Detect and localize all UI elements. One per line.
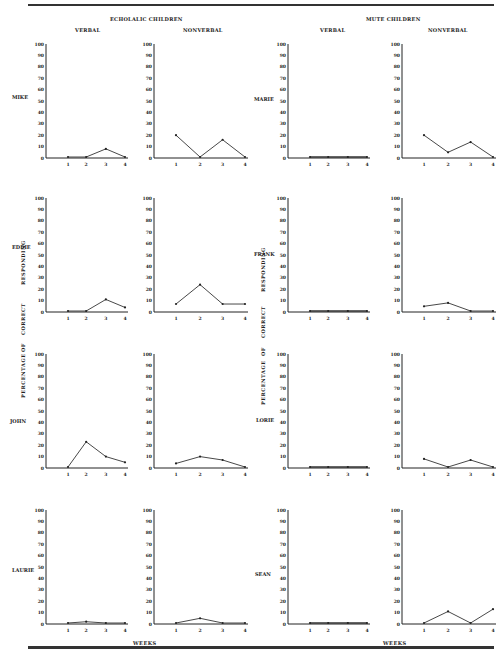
- svg-text:4: 4: [491, 472, 494, 477]
- svg-text:20: 20: [280, 443, 286, 448]
- svg-text:30: 30: [394, 121, 400, 126]
- svg-text:10: 10: [394, 298, 400, 303]
- svg-text:60: 60: [38, 241, 44, 246]
- svg-text:90: 90: [280, 519, 286, 524]
- svg-text:40: 40: [280, 264, 286, 269]
- svg-text:0: 0: [149, 466, 152, 471]
- svg-text:90: 90: [38, 363, 44, 368]
- svg-text:70: 70: [280, 542, 286, 547]
- svg-text:2: 2: [198, 162, 201, 167]
- svg-text:4: 4: [365, 162, 368, 167]
- svg-text:70: 70: [38, 386, 44, 391]
- y-axis-label-of-right: OF: [260, 347, 266, 356]
- svg-text:2: 2: [198, 628, 201, 633]
- header-echolalic-nonverbal: NONVERBAL: [183, 27, 223, 33]
- header-echolalic-children: ECHOLALIC CHILDREN: [110, 16, 183, 22]
- svg-text:80: 80: [280, 218, 286, 223]
- svg-text:70: 70: [280, 386, 286, 391]
- svg-text:70: 70: [146, 542, 152, 547]
- svg-text:0: 0: [283, 622, 286, 627]
- svg-text:40: 40: [146, 110, 152, 115]
- svg-text:50: 50: [280, 99, 286, 104]
- svg-text:20: 20: [394, 133, 400, 138]
- svg-text:60: 60: [146, 241, 152, 246]
- svg-text:2: 2: [446, 628, 449, 633]
- header-mute-verbal: VERBAL: [320, 27, 345, 33]
- svg-text:40: 40: [146, 264, 152, 269]
- svg-text:100: 100: [35, 196, 44, 201]
- svg-text:3: 3: [469, 628, 472, 633]
- svg-text:10: 10: [146, 610, 152, 615]
- svg-text:2: 2: [327, 316, 330, 321]
- svg-text:4: 4: [243, 472, 246, 477]
- svg-text:20: 20: [38, 133, 44, 138]
- svg-text:90: 90: [38, 53, 44, 58]
- svg-text:80: 80: [38, 218, 44, 223]
- svg-text:3: 3: [346, 628, 349, 633]
- svg-text:80: 80: [394, 64, 400, 69]
- svg-text:80: 80: [394, 530, 400, 535]
- svg-text:50: 50: [146, 99, 152, 104]
- svg-text:40: 40: [394, 576, 400, 581]
- chart-mike-nonverbal: 01020304050607080901001234: [140, 40, 252, 170]
- svg-text:4: 4: [365, 316, 368, 321]
- svg-text:1: 1: [174, 162, 177, 167]
- svg-text:2: 2: [446, 162, 449, 167]
- svg-text:50: 50: [394, 99, 400, 104]
- header-echolalic-verbal: VERBAL: [75, 27, 100, 33]
- svg-text:90: 90: [394, 363, 400, 368]
- svg-text:60: 60: [280, 553, 286, 558]
- svg-text:0: 0: [41, 156, 44, 161]
- svg-text:20: 20: [38, 287, 44, 292]
- svg-text:40: 40: [146, 576, 152, 581]
- svg-text:100: 100: [277, 42, 286, 47]
- svg-text:0: 0: [149, 622, 152, 627]
- chart-marie-nonverbal: 01020304050607080901001234: [388, 40, 500, 170]
- svg-text:20: 20: [38, 599, 44, 604]
- svg-text:4: 4: [123, 316, 126, 321]
- svg-text:30: 30: [146, 121, 152, 126]
- svg-text:60: 60: [280, 241, 286, 246]
- svg-text:60: 60: [146, 87, 152, 92]
- svg-text:100: 100: [391, 196, 400, 201]
- svg-text:100: 100: [143, 508, 152, 513]
- svg-text:100: 100: [277, 196, 286, 201]
- svg-text:60: 60: [280, 397, 286, 402]
- svg-text:3: 3: [221, 628, 224, 633]
- svg-text:4: 4: [123, 628, 126, 633]
- svg-text:40: 40: [394, 420, 400, 425]
- svg-text:80: 80: [38, 374, 44, 379]
- chart-lorie-nonverbal: 01020304050607080901001234: [388, 350, 500, 480]
- svg-text:50: 50: [394, 565, 400, 570]
- svg-text:100: 100: [35, 508, 44, 513]
- svg-text:3: 3: [221, 162, 224, 167]
- svg-text:4: 4: [491, 162, 494, 167]
- svg-text:0: 0: [397, 310, 400, 315]
- svg-text:0: 0: [397, 156, 400, 161]
- svg-text:90: 90: [146, 363, 152, 368]
- svg-text:70: 70: [146, 230, 152, 235]
- svg-text:80: 80: [280, 64, 286, 69]
- svg-text:10: 10: [280, 144, 286, 149]
- svg-text:3: 3: [346, 472, 349, 477]
- svg-text:1: 1: [422, 162, 425, 167]
- svg-text:1: 1: [308, 162, 311, 167]
- svg-text:30: 30: [394, 587, 400, 592]
- child-name-john: JOHN: [10, 418, 26, 424]
- svg-text:1: 1: [422, 628, 425, 633]
- svg-text:1: 1: [174, 316, 177, 321]
- svg-text:60: 60: [38, 87, 44, 92]
- svg-text:20: 20: [280, 287, 286, 292]
- svg-text:30: 30: [146, 431, 152, 436]
- svg-text:2: 2: [198, 316, 201, 321]
- header-mute-nonverbal: NONVERBAL: [428, 27, 468, 33]
- svg-text:0: 0: [283, 466, 286, 471]
- svg-text:70: 70: [38, 542, 44, 547]
- svg-text:30: 30: [394, 275, 400, 280]
- y-axis-label-correct-right: CORRECT: [260, 306, 266, 338]
- svg-text:30: 30: [146, 275, 152, 280]
- svg-text:30: 30: [146, 587, 152, 592]
- svg-text:60: 60: [394, 553, 400, 558]
- svg-text:70: 70: [38, 230, 44, 235]
- svg-text:4: 4: [365, 472, 368, 477]
